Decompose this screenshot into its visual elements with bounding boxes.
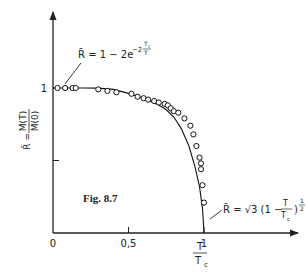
xlabel-den: T: [194, 255, 202, 266]
xlabel-num: T: [196, 241, 204, 252]
data-point: [129, 91, 134, 96]
x-tick-label: 0,5: [121, 238, 137, 249]
figure-caption: Fig. 8.7: [83, 192, 118, 204]
data-point: [200, 183, 205, 188]
data-point: [63, 85, 68, 90]
data-point: [105, 88, 110, 93]
ylabel-num: M(T): [18, 111, 28, 131]
data-point: [191, 132, 196, 137]
ylabel-lhs: R̄ =: [21, 133, 32, 150]
near-tc-frac-num: T: [282, 199, 288, 208]
data-point: [182, 116, 187, 121]
axis-tick-labels: 00,511: [41, 83, 208, 250]
magnetization-chart: 00,511 T T c R̄ = M(T) M(0) R̄ = 1 − 2e …: [0, 0, 308, 277]
data-point: [135, 94, 140, 99]
data-points: [55, 85, 207, 205]
data-point: [198, 167, 203, 172]
low-t-exp-den: T: [143, 49, 148, 56]
near-tc-close-paren: ): [294, 204, 298, 215]
data-point: [201, 200, 206, 205]
near-tc-formula: R̄ = √3 (1 −: [223, 203, 282, 215]
x-tick-label: 0: [50, 238, 56, 249]
data-point: [114, 90, 119, 95]
data-point: [176, 110, 181, 115]
data-point: [55, 85, 60, 90]
xlabel-den-sub: c: [204, 261, 208, 269]
near-tc-frac-den: T: [280, 211, 286, 220]
data-point: [156, 100, 161, 105]
data-point: [96, 87, 101, 92]
data-point: [194, 143, 199, 148]
ylabel-den: M(0): [30, 111, 40, 132]
theory-curve: [53, 88, 204, 233]
near-tc-exp-den: 2: [300, 205, 304, 212]
data-point: [198, 161, 203, 166]
data-point: [188, 123, 193, 128]
y-axis-label: R̄ = M(T) M(0): [18, 109, 40, 150]
low-t-exp-num-sub: c: [148, 44, 151, 49]
y-tick-label: 1: [41, 83, 47, 94]
data-point: [146, 97, 151, 102]
low-t-exp-prefix: −2: [132, 46, 142, 54]
low-t-formula: R̄ = 1 − 2e: [78, 48, 133, 60]
near-tc-exp-num: 1: [300, 197, 304, 204]
data-point: [197, 155, 202, 160]
near-tc-frac-den-sub: c: [287, 216, 290, 222]
annotation-low-temperature: R̄ = 1 − 2e −2 T c T: [65, 40, 151, 84]
data-point: [73, 85, 78, 90]
axis-ticks: [53, 88, 204, 233]
annotation-near-critical: R̄ = √3 (1 − T T c ) 1 2: [210, 197, 305, 222]
